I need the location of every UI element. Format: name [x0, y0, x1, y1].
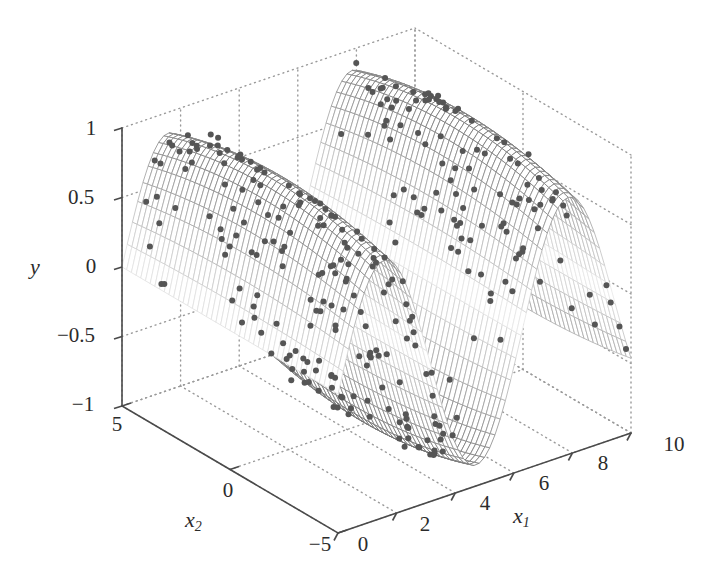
data-point [531, 206, 537, 212]
data-point [154, 194, 160, 200]
x1-tick-10: 10 [654, 434, 694, 455]
data-point [156, 220, 162, 226]
data-point [430, 393, 436, 399]
data-point [248, 159, 254, 165]
y-tick-neg0p5: −0.5 [46, 325, 106, 346]
data-point [378, 86, 384, 92]
data-point [387, 137, 393, 143]
data-point [403, 301, 409, 307]
data-point [412, 342, 418, 348]
axis-label-y: y [30, 256, 40, 278]
data-point [208, 131, 214, 137]
data-point [403, 411, 409, 417]
data-point [426, 96, 432, 102]
data-point [479, 223, 485, 229]
data-point [592, 322, 598, 328]
data-point [320, 299, 326, 305]
data-point [502, 279, 508, 285]
data-point [443, 104, 449, 110]
data-point [306, 379, 312, 385]
data-point [239, 187, 245, 193]
data-point [537, 202, 543, 208]
data-point [400, 278, 406, 284]
data-point [564, 212, 570, 218]
data-point [402, 444, 408, 450]
data-point [215, 135, 221, 141]
data-point [257, 182, 263, 188]
data-point [553, 189, 559, 195]
data-point [616, 323, 622, 329]
data-point [397, 379, 403, 385]
data-point [465, 268, 471, 274]
data-point [436, 99, 442, 105]
data-point [373, 260, 379, 266]
figure-3d-surface-scatter: 1 0.5 0 −0.5 −1 y 5 0 −5 x2 0 2 4 6 8 10… [0, 0, 701, 582]
data-point [455, 249, 461, 255]
data-point [397, 122, 403, 128]
data-point [332, 270, 338, 276]
data-point [317, 215, 323, 221]
y-tick-0p5: 0.5 [56, 187, 106, 208]
data-point [557, 258, 563, 264]
data-point [221, 160, 227, 166]
data-point [356, 353, 362, 359]
data-point [367, 414, 373, 420]
data-point [237, 286, 243, 292]
data-point [319, 270, 325, 276]
data-point [316, 388, 322, 394]
data-point [459, 235, 465, 241]
data-point [222, 252, 228, 258]
data-point [422, 141, 428, 147]
data-point [348, 405, 354, 411]
data-point [438, 133, 444, 139]
data-point [429, 370, 435, 376]
data-point [603, 282, 609, 288]
data-point [378, 101, 384, 107]
x1-tick-4: 4 [470, 493, 500, 514]
data-point [230, 206, 236, 212]
data-point [322, 206, 328, 212]
data-point [435, 93, 441, 99]
data-point [182, 166, 188, 172]
data-point [172, 205, 178, 211]
axis-label-x1-base: x [513, 503, 523, 528]
data-point [478, 272, 484, 278]
data-point [280, 263, 286, 269]
data-point [433, 190, 439, 196]
data-point [537, 279, 543, 285]
data-point [411, 194, 417, 200]
data-point [520, 245, 526, 251]
data-point [497, 191, 503, 197]
data-point [423, 371, 429, 377]
data-point [268, 351, 274, 357]
data-point [482, 151, 488, 157]
data-point [536, 175, 542, 181]
data-point [425, 90, 431, 96]
data-point [316, 358, 322, 364]
data-point [317, 201, 323, 207]
data-point [466, 165, 472, 171]
data-point [454, 415, 460, 421]
data-point [346, 411, 352, 417]
data-point [276, 215, 282, 221]
data-point [315, 223, 321, 229]
data-point [339, 227, 345, 233]
data-point [376, 353, 382, 359]
axis-label-x1-sub: 1 [523, 515, 530, 530]
data-point [351, 393, 357, 399]
data-point [152, 158, 158, 164]
data-point [386, 406, 392, 412]
data-point [161, 281, 167, 287]
data-point [418, 212, 424, 218]
data-point [255, 199, 261, 205]
data-point [453, 191, 459, 197]
data-point [258, 330, 264, 336]
x1-tick-8: 8 [588, 453, 618, 474]
data-point [494, 135, 500, 141]
data-point [354, 229, 360, 235]
data-point [286, 183, 292, 189]
data-point [431, 413, 437, 419]
data-point [409, 314, 415, 320]
data-point [447, 377, 453, 383]
data-point [608, 300, 614, 306]
